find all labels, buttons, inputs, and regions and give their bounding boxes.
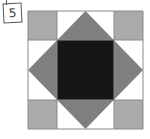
corner-square-bottom-right [114, 100, 143, 129]
corner-square-top-right [114, 11, 143, 40]
quilt-block-figure [0, 0, 150, 139]
center-square [57, 40, 114, 100]
corner-square-bottom-left [28, 100, 57, 129]
corner-square-top-left [28, 11, 57, 40]
